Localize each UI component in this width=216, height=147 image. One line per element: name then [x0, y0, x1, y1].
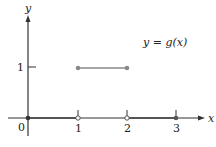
x-axis-label: x — [208, 112, 215, 125]
x-axis-arrow-icon — [198, 116, 205, 121]
y-axis-arrow-icon — [26, 15, 31, 22]
closed-point-3-0 — [174, 116, 179, 121]
closed-point-0-0 — [26, 116, 31, 121]
y-axis-label: y — [24, 2, 32, 15]
closed-point-2-1 — [125, 66, 130, 71]
x-tick-label-1: 1 — [75, 122, 82, 135]
plot-area: y x 1 0 1 2 3 y = g(x) — [0, 0, 216, 147]
y-tick-label-1: 1 — [17, 61, 24, 74]
function-label: y = g(x) — [142, 36, 187, 49]
origin-label: 0 — [18, 121, 25, 134]
x-tick-label-3: 3 — [173, 122, 180, 135]
open-point-2-0 — [125, 116, 129, 120]
closed-point-1-1 — [76, 66, 81, 71]
x-tick-label-2: 2 — [124, 122, 131, 135]
chart: y x 1 0 1 2 3 y = g(x) — [0, 0, 216, 147]
open-point-1-0 — [76, 116, 80, 120]
